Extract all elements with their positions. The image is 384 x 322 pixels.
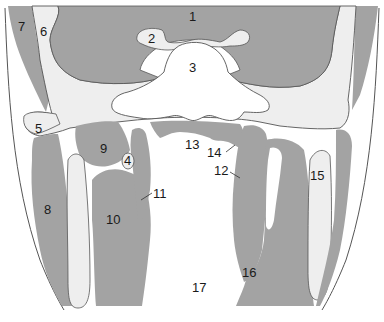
label-7: 7 [18,19,25,34]
label-5: 5 [35,121,42,136]
label-10: 10 [106,212,120,227]
label-3: 3 [189,60,196,75]
leader-14 [226,145,235,152]
label-17: 17 [192,280,206,295]
label-4: 4 [124,153,131,168]
label-8: 8 [44,202,51,217]
label-6: 6 [40,24,47,39]
label-9: 9 [100,141,107,156]
region-right-lateral [352,6,378,110]
label-11: 11 [153,186,167,201]
label-13: 13 [185,137,199,152]
label-16: 16 [242,265,256,280]
left-ramus [67,154,90,308]
diagram-canvas: 1 2 3 4 5 6 7 8 9 10 11 12 13 14 15 16 1… [0,0,384,322]
label-12: 12 [214,163,228,178]
anatomical-diagram: 1 2 3 4 5 6 7 8 9 10 11 12 13 14 15 16 1… [0,0,384,322]
label-2: 2 [148,31,155,46]
label-15: 15 [310,168,324,183]
label-1: 1 [189,9,196,24]
label-14: 14 [207,145,221,160]
